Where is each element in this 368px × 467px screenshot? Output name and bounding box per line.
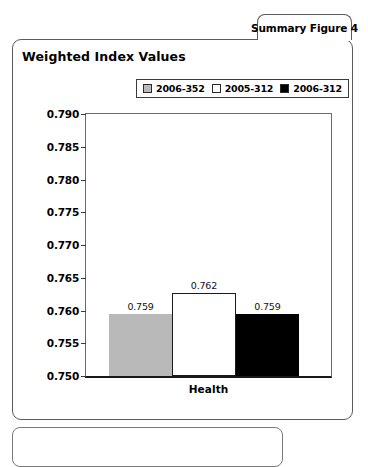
y-axis-tick-label: 0.775 [47, 206, 86, 218]
y-axis-tick-label: 0.755 [47, 337, 86, 349]
bar-value-label: 0.759 [127, 301, 153, 312]
bar-2005-312[interactable]: 0.762 [172, 293, 235, 376]
chart-legend: 2006-3522005-3122006-312 [136, 79, 349, 98]
y-axis-tick-label: 0.785 [47, 141, 86, 153]
plot-area: 0.7900.7850.7800.7750.7700.7650.7600.755… [85, 113, 332, 378]
y-axis-tick-label: 0.790 [47, 108, 86, 120]
bar-2006-312[interactable]: 0.759 [236, 314, 299, 376]
y-axis-tick-label: 0.780 [47, 174, 86, 186]
figure-tab-label: Summary Figure 4 [251, 22, 358, 34]
bar-value-label: 0.762 [191, 280, 217, 291]
chart-title: Weighted Index Values [22, 49, 186, 64]
legend-swatch-icon [212, 84, 221, 93]
y-axis-tick-label: 0.765 [47, 272, 86, 284]
next-figure-panel [12, 427, 283, 467]
legend-label: 2006-352 [156, 83, 205, 94]
x-axis-category-label: Health [85, 383, 332, 395]
bar-group: 0.7590.7620.759 [86, 114, 331, 376]
legend-swatch-icon [280, 84, 289, 93]
tab-panel-merge [259, 37, 351, 41]
bar-2006-352[interactable]: 0.759 [109, 314, 172, 376]
bar-value-label: 0.759 [254, 301, 280, 312]
legend-item[interactable]: 2006-312 [280, 83, 342, 94]
y-axis-tick-label: 0.770 [47, 239, 86, 251]
legend-label: 2006-312 [293, 83, 342, 94]
legend-item[interactable]: 2005-312 [212, 83, 274, 94]
legend-label: 2005-312 [225, 83, 274, 94]
y-axis-tick-label: 0.750 [47, 370, 86, 382]
legend-item[interactable]: 2006-352 [143, 83, 205, 94]
y-axis-tick-label: 0.760 [47, 305, 86, 317]
legend-swatch-icon [143, 84, 152, 93]
